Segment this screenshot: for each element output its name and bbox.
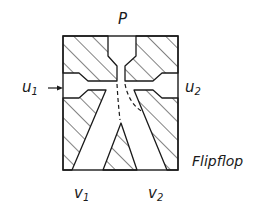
flipflop-diagram <box>0 0 277 220</box>
label-control-u2: u2 <box>185 80 201 97</box>
label-subscript: 2 <box>157 192 163 203</box>
label-name-flipflop: Flipflop <box>192 154 243 168</box>
label-output-v1: v1 <box>74 186 89 203</box>
label-text: v <box>148 184 157 202</box>
label-text: P <box>118 10 127 28</box>
upper-right-block <box>125 36 178 81</box>
label-supply-p: P <box>118 12 127 27</box>
upper-left-block <box>63 36 117 81</box>
label-output-v2: v2 <box>148 186 163 203</box>
arrow-right-icon <box>48 86 63 91</box>
label-text: u <box>185 78 195 96</box>
label-subscript: 2 <box>195 86 201 97</box>
label-text: Flipflop <box>192 153 243 169</box>
splitter-wedge <box>103 123 137 170</box>
label-text: u <box>22 78 32 96</box>
jet-path-straight <box>117 84 120 120</box>
label-subscript: 1 <box>83 192 89 203</box>
label-control-u1: u1 <box>22 80 38 97</box>
label-subscript: 1 <box>32 86 38 97</box>
label-text: v <box>74 184 83 202</box>
lower-right-block <box>134 90 178 170</box>
lower-left-block <box>63 90 106 170</box>
